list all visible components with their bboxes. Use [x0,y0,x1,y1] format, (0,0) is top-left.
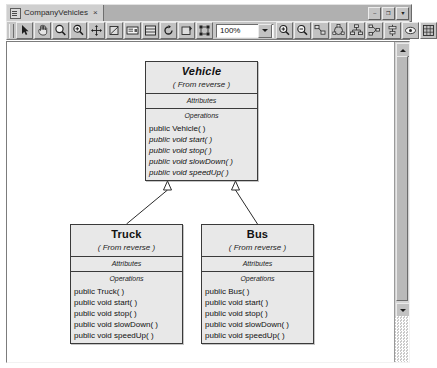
uml-class-stereotype: ( From reverse ) [73,242,180,253]
uml-class-bus[interactable]: Bus( From reverse )AttributesOperationsp… [201,224,314,344]
operations-label: Operations [202,272,313,286]
scrollbar-corner [394,316,409,362]
fit-page-tool[interactable] [196,22,213,39]
uml-operation: public Truck( ) [71,286,182,297]
uml-class-name: Bus [204,228,311,241]
toolbar-grip[interactable] [9,24,14,38]
minimize-icon: – [373,10,376,15]
tab-label: CompanyVehicles [24,9,88,17]
uml-class-header: Truck( From reverse ) [71,225,182,257]
scroll-down-button[interactable] [396,303,410,317]
layout-tree-icon [349,23,364,38]
uml-class-name: Truck [73,228,180,241]
attributes-label: Attributes [146,94,257,108]
uml-class-truck[interactable]: Truck( From reverse )AttributesOperation… [70,224,183,344]
chevron-down-icon [262,29,268,32]
chevron-down-icon [400,309,406,312]
uml-class-stereotype: ( From reverse ) [204,242,311,253]
uml-operations-compartment: Operationspublic Truck( )public void sta… [71,272,182,343]
grid-tool[interactable] [420,22,437,39]
generalization-bus-vehicle[interactable] [232,181,258,224]
pan-hand-tool[interactable] [34,22,51,39]
layout-tool-1[interactable] [312,22,329,39]
arrow-cursor-icon [17,23,32,38]
reverse-engineer-tool[interactable] [178,22,195,39]
layout-tool-2[interactable] [330,22,347,39]
restore-button[interactable]: ❐ [382,7,395,20]
uml-operation: public void start( ) [202,297,313,308]
uml-class-vehicle[interactable]: Vehicle( From reverse )AttributesOperati… [145,61,258,181]
reverse-arrow-icon [179,23,194,38]
label-box-icon [125,23,140,38]
uml-class-header: Vehicle( From reverse ) [146,62,257,94]
restore-icon: ❐ [386,10,391,15]
zoom-selection-tool[interactable] [70,22,87,39]
zoom-combo[interactable]: 100% [216,24,274,38]
layout-tool-3[interactable] [348,22,365,39]
uml-operation: public void speedUp( ) [71,330,182,341]
window-controls: – ❐ ▼ [368,5,411,21]
generalization-arrowhead [232,181,240,190]
uml-operation: public void speedUp( ) [202,330,313,341]
attributes-label: Attributes [71,257,182,271]
align-tool[interactable] [384,22,401,39]
uml-attributes-compartment: Attributes [146,94,257,109]
preview-icon [403,23,418,38]
zoom-dropdown-button[interactable] [258,24,272,38]
magnifier-icon [53,23,68,38]
uml-attributes-compartment: Attributes [71,257,182,272]
class-box-icon [143,23,158,38]
operations-label: Operations [71,272,182,286]
generalization-line [127,190,168,224]
tab-companyvehicles[interactable]: CompanyVehicles × [7,5,104,21]
vertical-scrollbar-thumb[interactable] [396,56,408,301]
zoom-level-value: 100% [217,27,258,35]
uml-class-header: Bus( From reverse ) [202,225,313,257]
layout-circular-icon [331,23,346,38]
uml-attributes-compartment: Attributes [202,257,313,272]
class-tool[interactable] [142,22,159,39]
diagram-canvas[interactable]: Vehicle( From reverse )AttributesOperati… [7,42,388,363]
grid-icon [421,23,436,38]
magnifier-plus-icon [71,23,86,38]
uml-operations-compartment: Operationspublic Bus( )public void start… [202,272,313,343]
close-button[interactable]: ▼ [396,7,409,20]
uml-operation: public void slowDown( ) [71,319,182,330]
move-tool[interactable] [88,22,105,39]
zoom-out-tool[interactable] [294,22,311,39]
magnifier-minus-icon [295,23,310,38]
diagram-canvas-frame: Vehicle( From reverse )AttributesOperati… [6,41,410,363]
operations-label: Operations [146,109,257,123]
tab-bar-spacer [104,5,368,21]
layout-nodes-icon [313,23,328,38]
minimize-button[interactable]: – [368,7,381,20]
align-icon [385,23,400,38]
dropdown-icon: ▼ [400,10,405,15]
fit-corners-icon [197,23,212,38]
document-icon [10,8,21,19]
scroll-up-button[interactable] [396,43,410,57]
refresh-arrows-icon [161,23,176,38]
uml-class-stereotype: ( From reverse ) [148,79,255,90]
layout-hierarchic-icon [367,23,382,38]
uml-operation: public void speedUp( ) [146,167,257,178]
zoom-tool[interactable] [52,22,69,39]
tab-bar: CompanyVehicles × – ❐ ▼ [6,4,412,22]
show-labels-tool[interactable] [124,22,141,39]
edit-shape-tool[interactable] [106,22,123,39]
uml-operation: public Bus( ) [202,286,313,297]
layout-tool-4[interactable] [366,22,383,39]
pencil-shape-icon [107,23,122,38]
generalization-line [236,190,258,224]
uml-operation: public void slowDown( ) [146,156,257,167]
close-icon[interactable]: × [93,9,98,17]
refresh-tool[interactable] [160,22,177,39]
generalization-truck-vehicle[interactable] [127,181,172,224]
zoom-in-tool[interactable] [276,22,293,39]
vertical-scrollbar[interactable] [394,42,409,363]
generalization-arrowhead [164,181,172,190]
select-arrow-tool[interactable] [16,22,33,39]
diagram-toolbar: 100% [6,21,410,40]
uml-operation: public void stop( ) [202,308,313,319]
print-preview-tool[interactable] [402,22,419,39]
